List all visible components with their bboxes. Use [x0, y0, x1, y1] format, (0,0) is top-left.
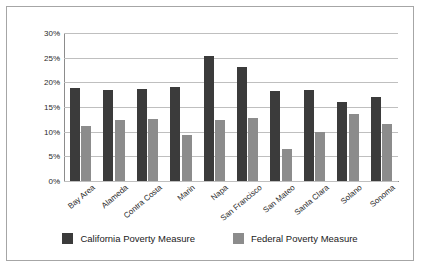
bar [304, 90, 314, 181]
bar-group [97, 33, 130, 181]
x-axis-category-label: Bay Area [66, 183, 97, 211]
bar-group [331, 33, 364, 181]
bar [204, 56, 214, 181]
chart-legend: California Poverty MeasureFederal Povert… [7, 233, 413, 244]
legend-item: California Poverty Measure [62, 233, 195, 244]
y-axis-tick-label: 25% [14, 53, 60, 62]
bar-group [298, 33, 331, 181]
y-axis-tick-label: 20% [14, 78, 60, 87]
bar [371, 97, 381, 181]
bar-group [231, 33, 264, 181]
legend-item: Federal Poverty Measure [233, 233, 358, 244]
bar [270, 91, 280, 181]
bar [170, 87, 180, 181]
x-axis-category-label: Marin [176, 183, 197, 203]
y-axis-tick-mark [56, 33, 60, 34]
y-axis-tick-label: 0% [14, 177, 60, 186]
bar-group [198, 33, 231, 181]
y-axis-tick-mark [56, 58, 60, 59]
y-axis-tick-label: 30% [14, 29, 60, 38]
x-axis-category-label: Napa [210, 183, 230, 202]
chart-frame: 0%5%10%15%20%25%30% Bay AreaAlamedaContr… [6, 6, 414, 261]
gridline [64, 181, 398, 182]
bar [337, 102, 347, 181]
legend-label: Federal Poverty Measure [251, 233, 358, 244]
y-axis-tick-mark [56, 156, 60, 157]
x-axis-category-labels: Bay AreaAlamedaContra CostaMarinNapaSan … [64, 183, 398, 233]
bar [315, 132, 325, 181]
x-axis-category-label: Sonoma [368, 183, 397, 209]
x-axis-category-label: Santa Clara [292, 183, 330, 217]
bar [148, 119, 158, 181]
bar-group [264, 33, 297, 181]
bar-group [64, 33, 97, 181]
y-axis-tick-mark [56, 132, 60, 133]
legend-label: California Poverty Measure [80, 233, 195, 244]
bar [137, 89, 147, 181]
y-axis-tick-label: 5% [14, 152, 60, 161]
bar [70, 88, 80, 181]
x-axis-category-label: Alameda [100, 183, 130, 210]
bar [237, 67, 247, 181]
bar [248, 118, 258, 181]
bar-group [365, 33, 398, 181]
bar [215, 120, 225, 181]
bar [382, 124, 392, 181]
plot-area [64, 33, 398, 181]
legend-swatch-icon [62, 233, 73, 244]
bar-group [131, 33, 164, 181]
bar [115, 120, 125, 181]
y-axis-tick-label: 10% [14, 127, 60, 136]
bar [81, 126, 91, 181]
x-axis-category-label: Solano [339, 183, 364, 206]
bar-group [164, 33, 197, 181]
bar [182, 135, 192, 181]
bar [349, 114, 359, 181]
y-axis-tick-mark [56, 107, 60, 108]
y-axis-tick-label: 15% [14, 103, 60, 112]
bar [282, 149, 292, 181]
y-axis-tick-mark [56, 181, 60, 182]
legend-swatch-icon [233, 233, 244, 244]
y-axis-tick-labels: 0%5%10%15%20%25%30% [7, 33, 60, 181]
y-axis-tick-mark [56, 82, 60, 83]
plot-wrapper: 0%5%10%15%20%25%30% Bay AreaAlamedaContr… [7, 7, 413, 260]
bar [103, 90, 113, 181]
